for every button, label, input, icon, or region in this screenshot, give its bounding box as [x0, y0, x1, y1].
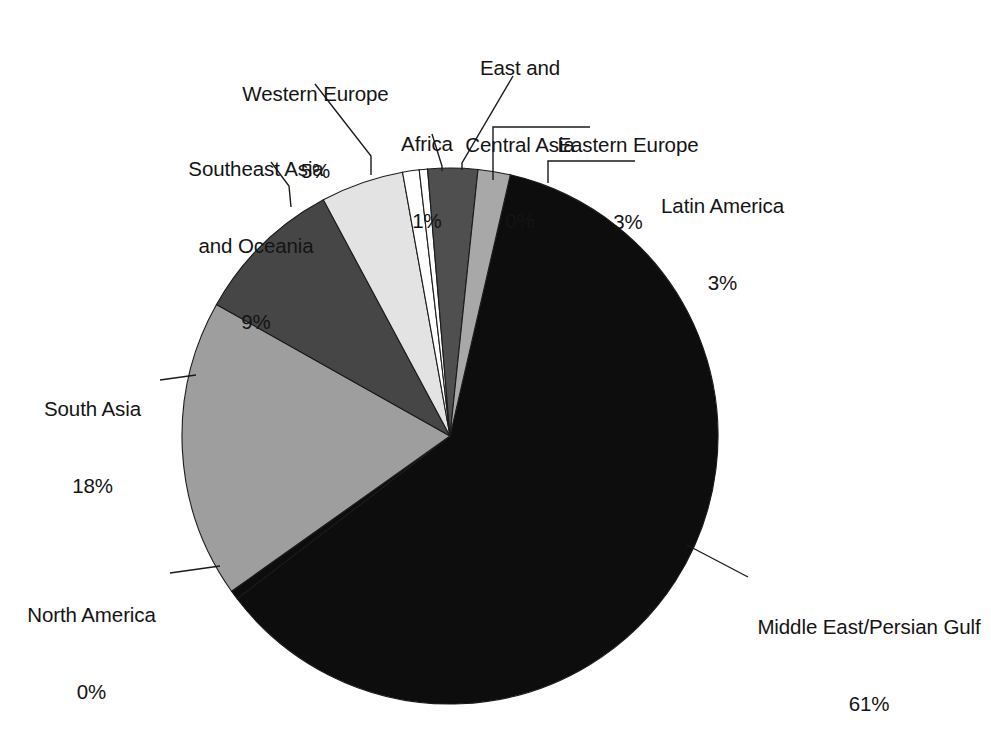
- slice-label-south-asia-percent: 18%: [30, 473, 155, 499]
- slice-label-north-america-percent: 0%: [14, 679, 169, 705]
- slice-label-south-asia-name: South Asia: [30, 396, 155, 422]
- pie-chart-page: Western Europe 5% East and Central Asia …: [0, 0, 991, 732]
- slice-label-middle-east-percent: 61%: [747, 691, 991, 717]
- slice-label-southeast-asia: Southeast Asia and Oceania 9%: [156, 105, 356, 386]
- leader-line-north-america: [170, 566, 220, 573]
- slice-label-africa-percent: 1%: [367, 208, 487, 234]
- slice-label-latin-america-name: Latin America: [630, 193, 815, 219]
- slice-label-north-america-name: North America: [14, 602, 169, 628]
- slice-label-middle-east: Middle East/Persian Gulf 61%: [747, 563, 991, 732]
- slice-label-africa-name: Africa: [367, 131, 487, 157]
- slice-label-latin-america-percent: 3%: [630, 270, 815, 296]
- slice-label-southeast-asia-name-line1: Southeast Asia: [156, 156, 356, 182]
- leader-line-middle-east: [687, 545, 748, 577]
- slice-label-southeast-asia-name-line2: and Oceania: [156, 233, 356, 259]
- slice-label-middle-east-name: Middle East/Persian Gulf: [747, 614, 991, 640]
- slice-label-south-asia: South Asia 18%: [30, 345, 155, 549]
- slice-label-east-central-asia-name-line1: East and: [440, 55, 600, 81]
- slice-label-africa: Africa 1%: [367, 80, 487, 284]
- slice-label-latin-america: Latin America 3%: [630, 142, 815, 346]
- slice-label-north-america: North America 0%: [14, 551, 169, 732]
- slice-label-southeast-asia-percent: 9%: [156, 309, 356, 335]
